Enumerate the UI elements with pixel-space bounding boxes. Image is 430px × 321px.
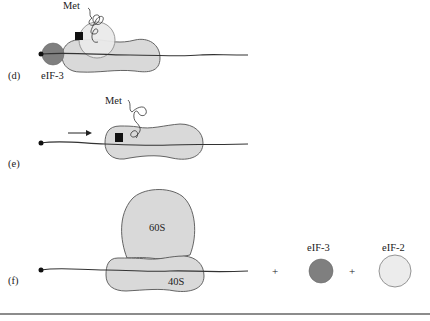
- start-codon-marker-e: [115, 133, 123, 142]
- eif2-label-released: eIF-2: [382, 242, 405, 253]
- panel-d: Met (d) eIF-3: [8, 0, 248, 82]
- plus-sign-1: +: [272, 265, 278, 277]
- panel-f: 60S 40S (f): [8, 190, 248, 292]
- plus-sign-2: +: [349, 265, 355, 277]
- eif3-label-d: eIF-3: [41, 70, 64, 81]
- panel-label-d: (d): [8, 70, 21, 82]
- eif2-circle-d: [79, 22, 115, 58]
- mrna-5prime-cap-f: [39, 268, 44, 273]
- bottom-rule: [0, 313, 430, 315]
- subunit-40s-f: [106, 256, 204, 291]
- eif2-circle-released: [379, 255, 411, 287]
- scanning-arrow-icon: [68, 130, 92, 136]
- panel-label-f: (f): [8, 275, 19, 287]
- met-label-d: Met: [63, 0, 80, 11]
- met-label-e: Met: [105, 95, 122, 106]
- eif3-label-released: eIF-3: [307, 242, 330, 253]
- subunit-40s-label: 40S: [168, 276, 185, 287]
- panel-label-e: (e): [8, 158, 20, 170]
- panel-e: Met (e): [8, 95, 248, 170]
- start-codon-marker-d: [75, 32, 83, 40]
- mrna-5prime-cap-e: [39, 141, 44, 146]
- translation-initiation-diagram: Met (d) eIF-3 Met (e) 60S 40S (f) + eIF-…: [0, 0, 430, 321]
- eif3-circle-released: [309, 259, 333, 283]
- subunit-60s-label: 60S: [149, 222, 166, 233]
- released-factors: + eIF-3 + eIF-2: [272, 242, 411, 287]
- mrna-5prime-cap-d: [39, 52, 44, 57]
